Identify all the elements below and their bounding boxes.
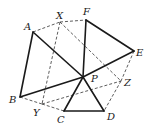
point-label-P: P [90,73,98,84]
solid-segment-FP [83,20,86,77]
point-label-X: X [55,10,64,21]
point-label-D: D [106,111,115,122]
point-label-Z: Z [123,77,132,88]
geometry-diagram: AXFEPZBYCD [0,0,149,127]
solid-segment-AB [20,32,33,97]
solid-lines [20,20,134,111]
point-label-F: F [82,6,91,17]
solid-segment-AP [33,32,83,77]
dashed-segment-BY [20,97,42,104]
point-label-C: C [57,114,65,125]
dashed-lines [20,20,134,111]
dashed-segment-XY [42,22,60,104]
dashed-segment-YC [42,104,64,111]
dashed-segment-AX [33,22,60,32]
solid-segment-FE [86,20,134,51]
dashed-segment-XF [60,20,86,22]
point-label-B: B [8,94,16,105]
dashed-segment-YZ [42,81,121,104]
point-label-E: E [135,47,144,58]
point-label-Y: Y [33,107,41,118]
point-label-A: A [23,21,31,32]
point-labels: AXFEPZBYCD [8,6,144,125]
